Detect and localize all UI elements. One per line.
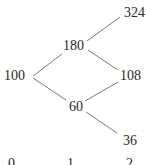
time-label-0: 0	[8, 157, 15, 165]
time-label-2: 2	[126, 157, 133, 165]
node-up-up: 324	[124, 6, 145, 20]
node-up: 180	[63, 39, 84, 53]
edge-180-324	[87, 17, 120, 41]
edge-180-108	[88, 50, 118, 70]
node-down: 60	[69, 100, 83, 114]
time-label-1: 1	[67, 157, 74, 165]
edge-100-60	[33, 78, 66, 100]
node-root: 100	[4, 69, 25, 83]
node-up-down: 108	[120, 69, 141, 83]
node-down-down: 36	[123, 134, 137, 148]
edge-60-36	[86, 112, 117, 133]
binomial-tree-diagram: 100 180 60 324 108 36 0 1 2	[0, 0, 147, 165]
edge-100-180	[33, 54, 62, 76]
edge-60-108	[85, 82, 118, 101]
